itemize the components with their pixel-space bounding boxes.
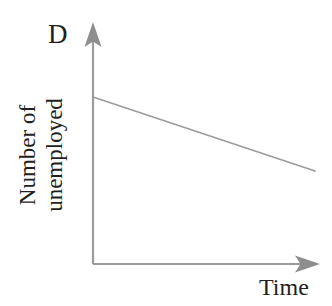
economics-line-chart: D Number of unemployed Time bbox=[0, 0, 332, 306]
y-axis-title-text: Number of unemployed bbox=[15, 98, 68, 212]
y-axis-title-line-2: unemployed bbox=[42, 98, 69, 212]
curve-label-d: D bbox=[48, 21, 68, 48]
x-axis-title: Time bbox=[259, 275, 309, 299]
demand-curve-line bbox=[93, 97, 315, 171]
y-axis-title-line-1: Number of bbox=[15, 98, 42, 212]
y-axis-title: Number of unemployed bbox=[0, 70, 84, 240]
